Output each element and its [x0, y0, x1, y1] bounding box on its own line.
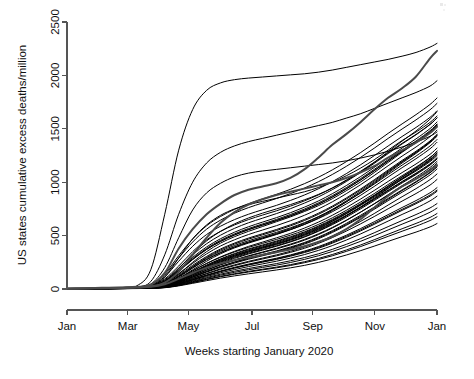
x-tick-label: Mar [118, 320, 138, 332]
x-tick-label: Jan [428, 320, 447, 332]
x-tick-label: May [178, 320, 200, 332]
x-axis-title: Weeks starting January 2020 [185, 345, 334, 357]
x-tick-label: Nov [365, 320, 386, 332]
y-tick-label: 500 [49, 226, 61, 245]
x-tick-label: Jul [245, 320, 260, 332]
excess-deaths-line-chart: 05001000150020002500 JanMarMayJulSepNovJ… [0, 0, 474, 379]
x-tick-label: Sep [303, 320, 323, 332]
y-tick-label: 1500 [49, 116, 61, 142]
y-axis-title: US states cumulative excess deaths/milli… [16, 45, 28, 266]
y-tick-label: 2500 [49, 9, 61, 35]
chart-root: 05001000150020002500 JanMarMayJulSepNovJ… [0, 0, 474, 379]
y-tick-label: 1000 [49, 169, 61, 195]
y-tick-label: 0 [49, 286, 61, 292]
x-tick-label: Jan [58, 320, 77, 332]
y-tick-label: 2000 [49, 63, 61, 89]
